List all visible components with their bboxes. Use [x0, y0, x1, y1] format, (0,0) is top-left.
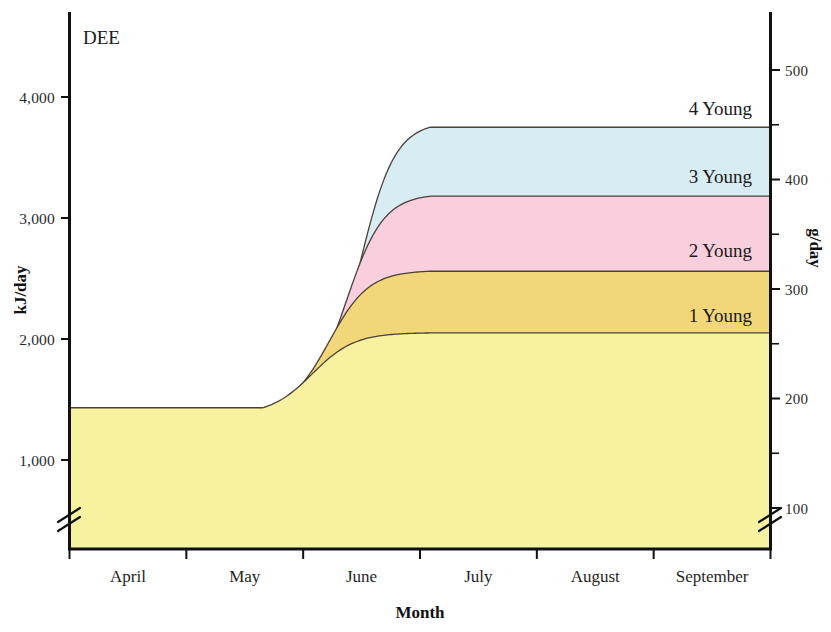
x-axis-title: Month	[395, 603, 445, 622]
series-label-3-young: 3 Young	[689, 166, 753, 187]
series-label-4-young: 4 Young	[689, 98, 753, 119]
dee-stacked-area-chart: 1,0002,0003,0004,000 100200300400500 Apr…	[0, 0, 831, 632]
series-label-1-young: 1 Young	[689, 305, 753, 326]
x-axis-month-label: May	[229, 567, 261, 586]
y-axis-left-tick-label: 3,000	[19, 210, 55, 227]
x-axis-month-label: June	[346, 567, 377, 586]
y-axis-right-tick-label: 200	[785, 391, 808, 407]
series-label-2-young: 2 Young	[689, 240, 753, 261]
panel-label: DEE	[83, 27, 120, 48]
y-axis-left-title: kJ/day	[11, 265, 30, 315]
y-axis-right-tick-label: 300	[785, 282, 808, 298]
x-axis-month-labels: AprilMayJuneJulyAugustSeptember	[110, 567, 749, 586]
y-axis-right-ticks: 100200300400500	[771, 63, 809, 517]
y-axis-right-tick-label: 500	[785, 63, 808, 79]
y-axis-right-tick-label: 400	[785, 172, 808, 188]
chart-container: 1,0002,0003,0004,000 100200300400500 Apr…	[0, 0, 831, 632]
y-axis-left-tick-label: 1,000	[19, 452, 55, 469]
y-axis-left-tick-label: 2,000	[19, 331, 55, 348]
x-axis-month-label: August	[571, 567, 620, 586]
y-axis-right-title: g/day	[806, 228, 825, 268]
x-axis-month-label: July	[464, 567, 493, 586]
x-axis-month-label: September	[676, 567, 749, 586]
y-axis-left-tick-label: 4,000	[19, 89, 55, 106]
x-axis-month-label: April	[110, 567, 146, 586]
y-axis-right-tick-label: 100	[785, 501, 808, 517]
